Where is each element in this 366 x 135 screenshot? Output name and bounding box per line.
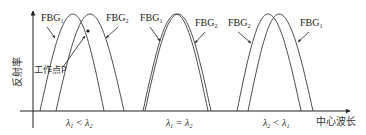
condition-label: λ1 < λ2 xyxy=(65,117,92,129)
reflection-curve-fbg1 xyxy=(143,14,208,111)
reflection-curve-fbg1 xyxy=(40,14,104,111)
label-arrow xyxy=(106,27,118,38)
label-arrow xyxy=(298,32,309,42)
curve-label-fbg2: FBG2 xyxy=(228,17,250,29)
y-axis-label: 反射率 xyxy=(11,57,23,87)
curve-label-fbg2: FBG2 xyxy=(106,12,128,24)
label-arrow xyxy=(47,27,55,38)
condition-label: λ2 < λ1 xyxy=(262,117,289,129)
panel-3: FBG2 FBG1 λ2 < λ1 xyxy=(228,17,322,129)
label-arrow xyxy=(150,27,160,41)
curve-label-fbg1: FBG1 xyxy=(300,17,322,29)
curve-label-fbg1: FBG1 xyxy=(140,12,162,24)
label-arrow xyxy=(195,32,205,43)
working-point-label: 工作点P xyxy=(34,64,67,75)
spectrum-curves xyxy=(40,14,313,111)
condition-label: λ1 = λ2 xyxy=(165,117,192,129)
reflection-curve-fbg2 xyxy=(145,14,211,111)
curve-label-fbg1: FBG1 xyxy=(41,12,63,24)
x-axis-label: 中心波长 xyxy=(316,115,356,127)
fbg-diagram: 反射率 中心波长 FBG1 FBG2 工作点P λ1 < λ2 FBG1 FBG… xyxy=(0,0,366,135)
working-point-dot xyxy=(86,29,89,32)
curve-label-fbg2: FBG2 xyxy=(195,17,217,29)
label-arrow xyxy=(238,32,251,43)
reflection-curve-fbg1 xyxy=(248,14,313,111)
